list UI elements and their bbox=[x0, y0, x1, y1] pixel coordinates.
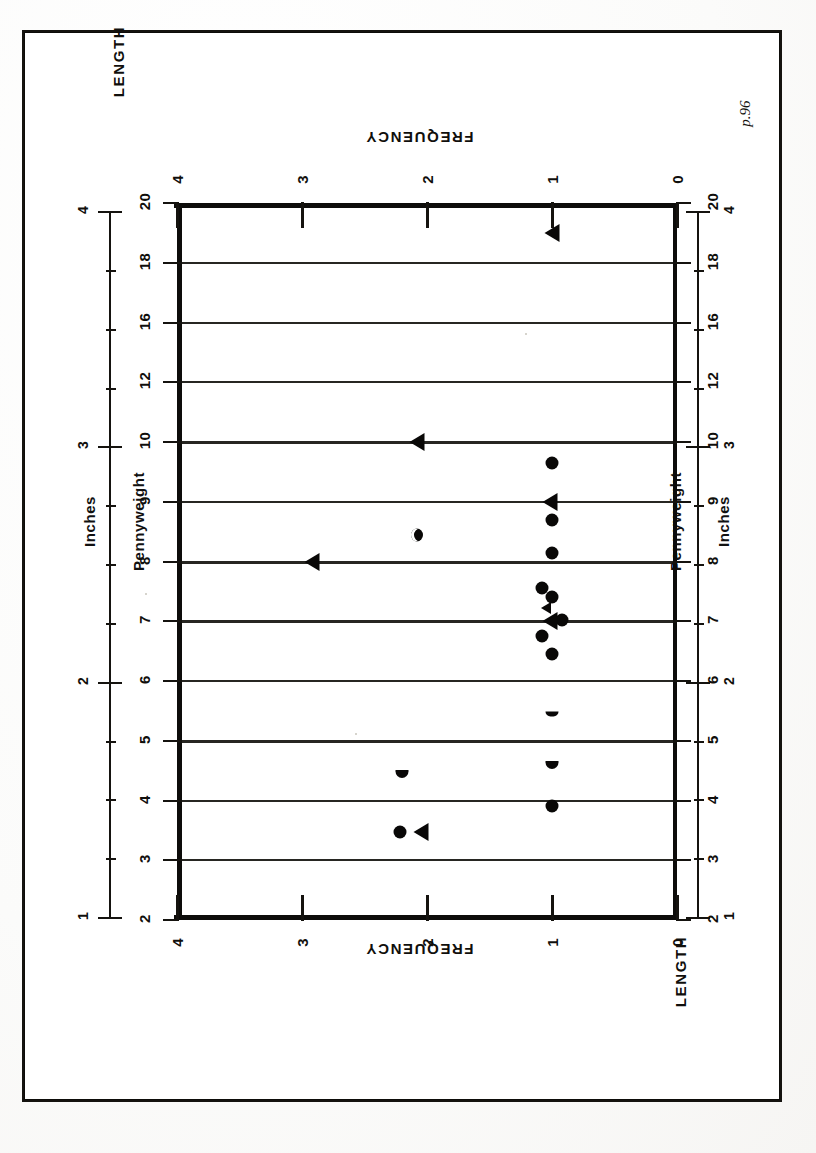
pennyweight-tick-label: 6 bbox=[704, 667, 721, 693]
pennyweight-tick-label: 4 bbox=[704, 786, 721, 812]
marker-triangle bbox=[410, 433, 425, 451]
pennyweight-tickmark bbox=[677, 740, 691, 742]
inches-axis-title-right: Inches bbox=[715, 472, 732, 572]
inches-tick-label: 4 bbox=[721, 198, 737, 222]
inches-tick-label: 2 bbox=[75, 669, 91, 693]
marker-glyph-icon bbox=[305, 553, 320, 571]
pennyweight-tick-label: 7 bbox=[136, 607, 153, 633]
gridline bbox=[177, 441, 677, 444]
marker-circle bbox=[546, 456, 559, 469]
frequency-tickmark bbox=[676, 895, 679, 921]
pennyweight-tick-label: 3 bbox=[136, 846, 153, 872]
marker-glyph-icon bbox=[393, 825, 406, 838]
pennyweight-tick-label: 18 bbox=[704, 248, 721, 274]
inches-minor-tick bbox=[694, 799, 704, 801]
marker-circle bbox=[536, 630, 549, 643]
gridline bbox=[177, 501, 677, 503]
pennyweight-tickmark bbox=[163, 202, 177, 204]
frequency-tick-label: 1 bbox=[544, 930, 561, 956]
inches-minor-tick bbox=[106, 388, 116, 390]
inches-minor-tick bbox=[106, 564, 116, 566]
inches-minor-tick bbox=[106, 799, 116, 801]
pennyweight-axis-title-left: Pennyweight bbox=[130, 472, 147, 572]
frequency-tickmark bbox=[301, 202, 304, 228]
plot-frame bbox=[177, 203, 677, 920]
marker-glyph-icon bbox=[410, 433, 425, 451]
marker-glyph-icon bbox=[546, 591, 559, 604]
marker-glyph-icon bbox=[546, 711, 559, 716]
pennyweight-tick-label: 12 bbox=[136, 368, 153, 394]
pennyweight-tickmark bbox=[677, 561, 691, 563]
gridline bbox=[177, 740, 677, 743]
gridline bbox=[177, 262, 677, 264]
pennyweight-tickmark bbox=[163, 501, 177, 503]
inches-minor-tick bbox=[106, 329, 116, 331]
marker-triangle bbox=[541, 602, 551, 614]
frequency-tick-label: 0 bbox=[669, 930, 686, 956]
pennyweight-tickmark bbox=[163, 800, 177, 802]
pennyweight-tickmark bbox=[163, 322, 177, 324]
inches-major-tick bbox=[98, 917, 122, 919]
pennyweight-tickmark bbox=[677, 202, 691, 204]
pennyweight-tickmark bbox=[163, 561, 177, 563]
inches-tick-label: 2 bbox=[721, 669, 737, 693]
inches-minor-tick bbox=[694, 858, 704, 860]
pennyweight-tick-label: 2 bbox=[704, 906, 721, 932]
scan-speck bbox=[355, 733, 357, 735]
frequency-tick-label: 4 bbox=[169, 167, 186, 193]
marker-glyph-icon bbox=[546, 648, 559, 661]
marker-circle bbox=[546, 711, 559, 716]
pennyweight-axis-title-right: Pennyweight bbox=[667, 472, 684, 572]
pennyweight-tick-label: 6 bbox=[136, 667, 153, 693]
pennyweight-tickmark bbox=[163, 859, 177, 861]
marker-triangle bbox=[542, 493, 557, 511]
marker-circle bbox=[536, 582, 549, 595]
marker-glyph-icon bbox=[413, 823, 428, 841]
pennyweight-tickmark bbox=[677, 501, 691, 503]
pennyweight-tick-label: 9 bbox=[704, 487, 721, 513]
marker-glyph-icon bbox=[411, 528, 423, 541]
pennyweight-tickmark bbox=[677, 441, 691, 443]
gridline bbox=[177, 322, 677, 324]
pennyweight-tickmark bbox=[677, 859, 691, 861]
pennyweight-tickmark bbox=[677, 800, 691, 802]
pennyweight-tick-label: 3 bbox=[704, 846, 721, 872]
pennyweight-tick-label: 18 bbox=[136, 248, 153, 274]
marker-glyph-icon bbox=[546, 513, 559, 526]
frequency-tickmark bbox=[676, 202, 679, 228]
inches-major-tick bbox=[686, 682, 710, 684]
figure-caption: Figure 110. Distribution of Metal Items … bbox=[800, 0, 814, 36]
marker-glyph-icon bbox=[396, 770, 409, 778]
pennyweight-tick-label: 7 bbox=[704, 607, 721, 633]
marker-glyph-icon bbox=[546, 546, 559, 559]
inches-major-tick bbox=[686, 446, 710, 448]
pennyweight-tick-label: 16 bbox=[704, 308, 721, 334]
scan-page-border: FREQUENCY LENGTH FREQUENCY LENGTH Pennyw… bbox=[22, 30, 782, 1102]
inches-major-tick bbox=[686, 917, 710, 919]
pennyweight-tick-label: 5 bbox=[704, 726, 721, 752]
frequency-tickmark bbox=[426, 895, 429, 921]
pennyweight-tickmark bbox=[163, 441, 177, 443]
marker-circle bbox=[556, 614, 569, 627]
marker-circle bbox=[546, 591, 559, 604]
pennyweight-tickmark bbox=[677, 381, 691, 383]
inches-tick-label: 3 bbox=[75, 433, 91, 457]
inches-axis-title-left: Inches bbox=[81, 472, 98, 572]
marker-circle bbox=[546, 513, 559, 526]
marker-glyph-icon bbox=[536, 630, 549, 643]
pennyweight-tick-label: 10 bbox=[704, 428, 721, 454]
inches-minor-tick bbox=[694, 505, 704, 507]
frequency-tickmark bbox=[551, 895, 554, 921]
pennyweight-tickmark bbox=[163, 680, 177, 682]
gridline bbox=[177, 620, 677, 623]
gridline bbox=[177, 680, 677, 682]
marker-triangle bbox=[545, 224, 560, 242]
length-axis-title-bottom: LENGTH bbox=[672, 917, 689, 1027]
pennyweight-tickmark bbox=[677, 262, 691, 264]
marker-glyph-icon bbox=[536, 582, 549, 595]
pennyweight-tickmark bbox=[677, 680, 691, 682]
pennyweight-tick-label: 5 bbox=[136, 726, 153, 752]
pennyweight-tick-label: 8 bbox=[704, 547, 721, 573]
marker-glyph-icon bbox=[542, 612, 557, 630]
marker-glyph-icon bbox=[542, 493, 557, 511]
